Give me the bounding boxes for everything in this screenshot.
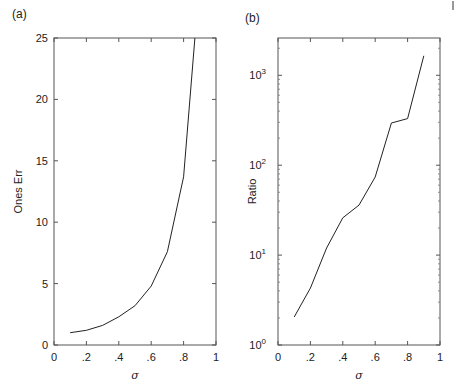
y-tick-label: 101 — [249, 247, 266, 261]
x-tick-label: .6 — [147, 351, 156, 363]
panel-label: (b) — [245, 11, 260, 25]
y-tick-label: 103 — [249, 67, 266, 81]
figure: (a)0.2.4.6.810510152025σOnes Err(b)0.2.4… — [0, 0, 458, 387]
y-tick-label: 10 — [36, 216, 48, 228]
x-tick-label: 0 — [51, 351, 57, 363]
x-tick-label: 0 — [275, 351, 281, 363]
x-tick-label: 1 — [437, 351, 443, 363]
y-tick-label: 102 — [249, 157, 266, 171]
y-tick-label: 100 — [249, 337, 266, 351]
y-tick-label: 20 — [36, 93, 48, 105]
data-line — [70, 38, 195, 333]
y-tick-label: 5 — [42, 278, 48, 290]
chart-panel-b: (b)0.2.4.6.81100101102103σRatio — [245, 11, 443, 382]
x-tick-label: .6 — [371, 351, 380, 363]
x-axis-title: σ — [355, 369, 363, 382]
x-tick-label: 1 — [213, 351, 219, 363]
panel-label: (a) — [12, 7, 27, 21]
plot-frame — [278, 38, 440, 345]
x-axis-title: σ — [131, 369, 139, 382]
x-tick-label: .8 — [179, 351, 188, 363]
y-axis-title: Ratio — [246, 179, 258, 205]
data-line — [294, 56, 424, 317]
x-tick-label: .4 — [338, 351, 347, 363]
y-tick-label: 15 — [36, 155, 48, 167]
x-tick-label: .2 — [82, 351, 91, 363]
plot-frame — [54, 38, 216, 345]
x-tick-label: .2 — [306, 351, 315, 363]
y-tick-label: 25 — [36, 32, 48, 44]
x-tick-label: .4 — [114, 351, 123, 363]
y-tick-label: 0 — [42, 339, 48, 351]
x-tick-label: .8 — [403, 351, 412, 363]
y-axis-title: Ones Err — [12, 169, 24, 213]
chart-panel-a: (a)0.2.4.6.810510152025σOnes Err — [12, 7, 219, 382]
